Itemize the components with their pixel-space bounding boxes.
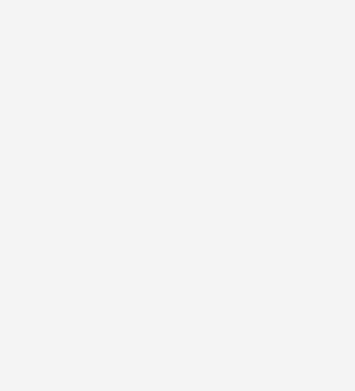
microcomputer-boundary (12, 27, 144, 34)
microcomputer-diagram (0, 0, 355, 391)
